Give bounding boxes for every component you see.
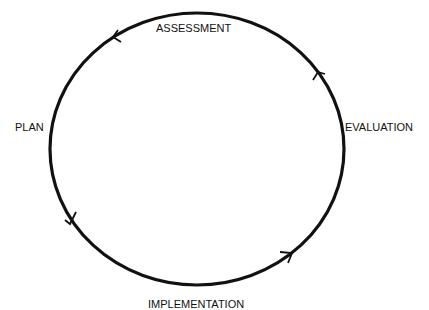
cycle-diagram [0,0,429,310]
cycle-ellipse [50,13,344,285]
stage-label-evaluation: EVALUATION [345,121,413,133]
stage-label-assessment: ASSESSMENT [156,22,231,34]
stage-label-implementation: IMPLEMENTATION [148,298,244,310]
stage-label-plan: PLAN [15,121,44,133]
